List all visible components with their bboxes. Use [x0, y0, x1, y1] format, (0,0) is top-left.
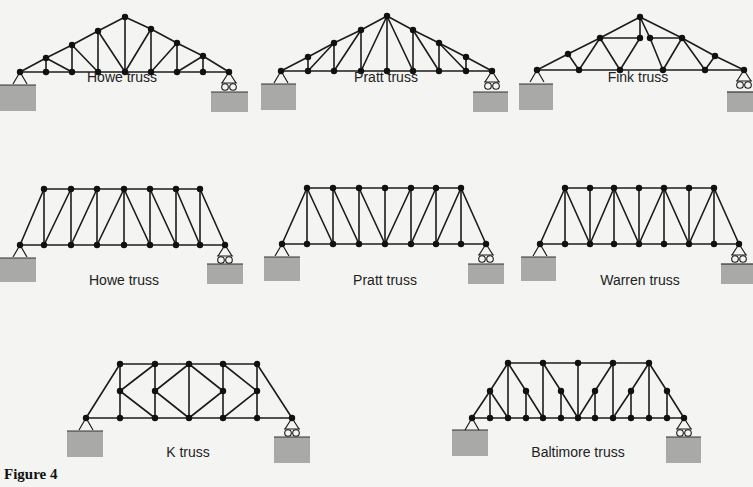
truss-joint [664, 415, 670, 421]
truss-joint [433, 241, 439, 247]
baltimore-bridge-label: Baltimore truss [531, 444, 624, 460]
truss-joint [304, 185, 310, 191]
truss-joint [94, 186, 100, 192]
truss-member [97, 189, 124, 245]
truss-member [120, 391, 155, 418]
truss-member [714, 188, 739, 244]
truss-joint [611, 241, 617, 247]
truss-joint [186, 361, 192, 367]
truss-member [631, 363, 649, 391]
truss-member [359, 188, 385, 244]
truss-joint [537, 241, 543, 247]
truss-joint [222, 242, 228, 248]
truss-member [124, 189, 150, 245]
truss-member [177, 56, 203, 72]
truss-joint [410, 27, 416, 33]
truss-joint [408, 241, 414, 247]
truss-joint [408, 185, 414, 191]
truss-joint [575, 415, 581, 421]
truss-member [120, 364, 155, 391]
truss-joint [43, 55, 49, 61]
truss-member [257, 364, 292, 418]
truss-joint [458, 185, 464, 191]
truss-joint [331, 40, 337, 46]
ground-block [519, 84, 553, 110]
truss-joint [646, 360, 652, 366]
truss-joint [534, 67, 540, 73]
truss-joint [636, 185, 642, 191]
truss-member [282, 188, 307, 244]
truss-joint [330, 241, 336, 247]
ground-block [727, 92, 753, 112]
truss-joint [463, 68, 469, 74]
truss-joint [558, 415, 564, 421]
truss-joint [686, 185, 692, 191]
truss-member [177, 43, 203, 56]
truss-joint [436, 68, 442, 74]
truss-joint [523, 415, 529, 421]
truss-member [189, 364, 223, 391]
truss-joint [458, 241, 464, 247]
howe-bridge-label: Howe truss [89, 272, 159, 288]
truss-joint [305, 54, 311, 60]
truss-joint [661, 185, 667, 191]
warren-bridge-label: Warren truss [600, 272, 680, 288]
truss-joint [592, 388, 598, 394]
truss-member [682, 38, 705, 70]
truss-joint [220, 388, 226, 394]
truss-member [526, 391, 543, 418]
truss-member [682, 38, 715, 56]
truss-joint [331, 68, 337, 74]
truss-joint [592, 415, 598, 421]
truss-joint [661, 241, 667, 247]
truss-member [640, 17, 682, 38]
truss-member [663, 38, 682, 70]
truss-member [200, 189, 225, 245]
howe-roof-diagram: Howe truss [13, 14, 237, 90]
truss-member [472, 391, 490, 418]
truss-member [439, 43, 466, 71]
truss-joint [197, 242, 203, 248]
truss-joint [226, 69, 232, 75]
truss-member [508, 363, 526, 391]
fink-roof-label: Fink truss [608, 69, 669, 85]
truss-joint [173, 242, 179, 248]
truss-joint [68, 186, 74, 192]
truss-joint [152, 388, 158, 394]
truss-member [155, 391, 189, 418]
truss-joint [254, 361, 260, 367]
truss-member [46, 45, 72, 58]
truss-member [590, 188, 614, 244]
ground-block [211, 92, 248, 112]
truss-joint [289, 415, 295, 421]
truss-joint [174, 69, 180, 75]
truss-member [125, 29, 151, 72]
truss-member [151, 29, 177, 43]
truss-joint [686, 241, 692, 247]
truss-member [649, 363, 667, 391]
truss-joint [505, 415, 511, 421]
truss-joint [505, 360, 511, 366]
truss-member [203, 56, 229, 72]
truss-joint [254, 415, 260, 421]
truss-joint [200, 53, 206, 59]
truss-joint [358, 27, 364, 33]
truss-types-figure: Howe trussPratt trussFink trussHowe trus… [0, 0, 753, 487]
ground-block [452, 430, 488, 456]
truss-member [72, 45, 98, 72]
truss-joint [356, 185, 362, 191]
truss-joint [174, 40, 180, 46]
truss-member [125, 17, 151, 29]
truss-joint [305, 68, 311, 74]
truss-joint [469, 415, 475, 421]
truss-member [223, 391, 257, 418]
truss-joint [173, 186, 179, 192]
truss-member [98, 17, 125, 31]
truss-joint [121, 242, 127, 248]
truss-joint [611, 185, 617, 191]
truss-member [385, 188, 411, 244]
truss-member [614, 188, 639, 244]
howe-bridge-diagram: Howe truss [13, 186, 233, 288]
truss-member [333, 188, 359, 244]
truss-joint [152, 415, 158, 421]
